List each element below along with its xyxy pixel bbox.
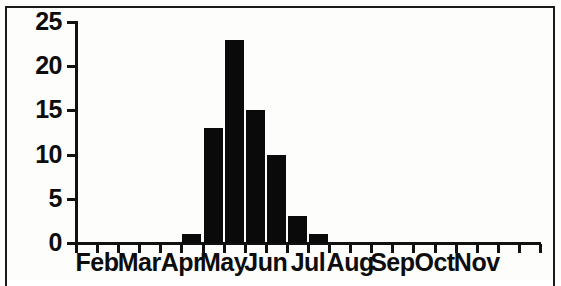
x-axis-tick xyxy=(518,244,521,253)
x-axis-month-label: Nov xyxy=(443,250,511,275)
y-axis-line xyxy=(75,21,78,245)
y-axis-tick-label: 25 xyxy=(16,9,62,34)
y-axis-tick xyxy=(67,198,76,201)
y-axis-tick-label: 5 xyxy=(16,186,62,211)
y-axis-tick-label: 15 xyxy=(16,97,62,122)
bar xyxy=(182,234,201,243)
bar xyxy=(225,40,244,243)
bar xyxy=(288,216,307,243)
y-axis-tick-label: 20 xyxy=(16,53,62,78)
y-axis-tick-label: 10 xyxy=(16,142,62,167)
bar xyxy=(204,128,223,243)
y-axis-tick xyxy=(67,65,76,68)
x-axis-tick xyxy=(539,244,542,253)
bar xyxy=(267,155,286,243)
y-axis-tick xyxy=(67,154,76,157)
y-axis-tick xyxy=(67,109,76,112)
bar xyxy=(309,234,328,243)
bar xyxy=(246,110,265,243)
y-axis-tick-label: 0 xyxy=(16,230,62,255)
y-axis-tick xyxy=(67,21,76,24)
